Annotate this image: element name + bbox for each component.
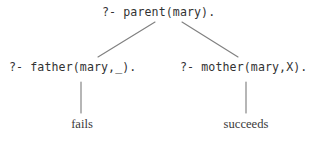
goal-node-father: ?- father(mary,_). bbox=[9, 60, 136, 74]
outcome-leaf-succeeds: succeeds bbox=[206, 117, 286, 132]
prolog-proof-tree-figure: ?- parent(mary). ?- father(mary,_). ?- m… bbox=[0, 0, 326, 142]
edge-root-to-mother bbox=[182, 22, 238, 57]
goal-node-root: ?- parent(mary). bbox=[102, 5, 215, 19]
goal-node-mother: ?- mother(mary,X). bbox=[180, 60, 307, 74]
edge-root-to-father bbox=[98, 22, 155, 57]
outcome-leaf-fails: fails bbox=[42, 117, 122, 132]
